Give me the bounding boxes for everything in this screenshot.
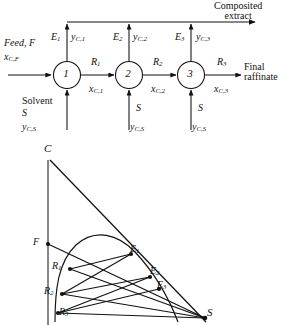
stage-1-extract-label: E1 (51, 32, 61, 43)
figure-root: Composited extract Feed, F xC,F Solvent … (0, 0, 290, 325)
ternary-vertex-S-label: S (207, 307, 213, 318)
flowsheet-group (8, 22, 255, 130)
ternary-group (46, 160, 207, 325)
solvent-word-label: Solvent (22, 96, 53, 106)
point-R2 (60, 292, 64, 296)
feed-label: Feed, F (4, 38, 35, 48)
feed-composition-label: xC,F (4, 52, 19, 63)
stage-3-solvent-symbol: S (198, 103, 203, 113)
stage-2-number: 2 (125, 68, 131, 79)
stage-1-extract-composition: yC,1 (71, 32, 85, 43)
composited-extract-label: Composited extract (214, 1, 262, 21)
ternary-point-E1-label: E1 (130, 244, 140, 255)
stage-2-extract-label: E2 (113, 32, 123, 43)
ternary-point-R3-label: R3 (59, 307, 69, 318)
stage-3-solvent-composition: yC,S (192, 122, 206, 133)
ternary-point-E3-label: E3 (157, 280, 167, 291)
final-raffinate-label: Final raffinate (244, 62, 278, 82)
stage-2-extract-composition: yC,2 (133, 32, 147, 43)
stage-2-raffinate-composition: xC,2 (151, 84, 165, 95)
stage-3-raffinate-label: R3 (217, 57, 227, 68)
operating-ray-R1-E2 (70, 269, 205, 318)
stage-2-solvent-symbol: S (136, 103, 141, 113)
tie-line-1 (70, 254, 131, 269)
stage-1-raffinate-composition: xC,1 (89, 84, 103, 95)
solvent-composition-label: yC,S (22, 122, 36, 133)
solvent-symbol-label: S (22, 108, 27, 118)
triangle-hypotenuse (50, 160, 206, 322)
stage-2-raffinate-label: R2 (153, 57, 163, 68)
stage-3-extract-composition: yC,3 (196, 32, 210, 43)
figure-vector-layer (0, 0, 290, 325)
tie-line-3 (58, 289, 159, 313)
stage-1-raffinate-label: R1 (91, 57, 101, 68)
stage-2-solvent-composition: yC,S (130, 122, 144, 133)
ternary-point-F-label: F (33, 237, 39, 247)
ternary-vertex-C-label: C (44, 143, 51, 154)
stage-1-number: 1 (63, 68, 69, 79)
stage-3-extract-label: E3 (175, 32, 185, 43)
stage-3-number: 3 (187, 68, 193, 79)
ternary-point-E2-label: E2 (150, 266, 160, 277)
ternary-point-R1-label: R1 (52, 261, 62, 272)
point-R1 (68, 267, 72, 271)
stage-3-raffinate-composition: xC,3 (214, 84, 228, 95)
ternary-point-R2-label: R2 (44, 286, 54, 297)
point-F (46, 242, 50, 246)
